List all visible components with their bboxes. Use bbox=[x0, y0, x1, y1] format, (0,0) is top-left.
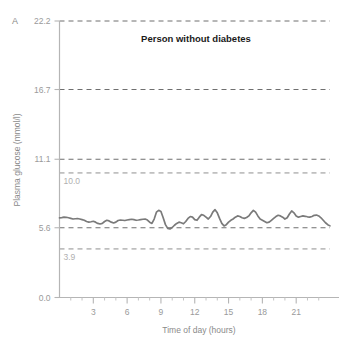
glucose-line-chart: A Person without diabetes 0.05.611.116.7… bbox=[0, 0, 349, 358]
x-tick-label: 9 bbox=[159, 307, 164, 317]
reference-line-label: 10.0 bbox=[64, 176, 81, 186]
y-tick-label: 22.2 bbox=[34, 16, 51, 26]
figure-panel-a: A Person without diabetes 0.05.611.116.7… bbox=[0, 0, 349, 358]
y-tick-label: 0.0 bbox=[39, 293, 51, 303]
x-axis-title: Time of day (hours) bbox=[162, 325, 236, 335]
x-tick-label: 18 bbox=[258, 307, 268, 317]
y-axis-title: Plasma glucose (mmol/l) bbox=[12, 113, 22, 206]
panel-letter: A bbox=[12, 16, 18, 26]
x-tick-label: 3 bbox=[91, 307, 96, 317]
x-tick-label: 12 bbox=[190, 307, 200, 317]
reference-line-label: 3.9 bbox=[64, 252, 76, 262]
reference-lines bbox=[60, 173, 331, 249]
gridlines bbox=[60, 21, 331, 298]
x-tick-label: 6 bbox=[125, 307, 130, 317]
x-tick-label: 15 bbox=[224, 307, 234, 317]
x-axis-ticks: 36912151821 bbox=[71, 298, 319, 317]
series-line bbox=[60, 210, 331, 229]
y-tick-label: 11.1 bbox=[35, 154, 51, 164]
y-tick-label: 5.6 bbox=[39, 223, 51, 233]
y-axis-ticks: 0.05.611.116.722.2 bbox=[34, 16, 60, 303]
chart-title: Person without diabetes bbox=[141, 33, 251, 44]
x-tick-label: 21 bbox=[291, 307, 301, 317]
data-series bbox=[60, 210, 331, 229]
y-tick-label: 16.7 bbox=[34, 85, 51, 95]
